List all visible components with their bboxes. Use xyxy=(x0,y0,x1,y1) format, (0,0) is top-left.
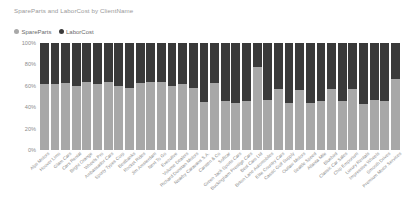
bar-segment-laborcost[interactable] xyxy=(253,43,262,67)
bar-segment-spareparts[interactable] xyxy=(136,83,145,150)
bar-segment-spareparts[interactable] xyxy=(295,90,304,150)
bar-group[interactable] xyxy=(135,43,146,150)
bar-segment-spareparts[interactable] xyxy=(61,83,70,150)
bar-segment-laborcost[interactable] xyxy=(317,43,326,101)
bar-group[interactable] xyxy=(358,43,369,150)
bar-segment-spareparts[interactable] xyxy=(263,100,272,150)
bar-group[interactable] xyxy=(199,43,210,150)
bar-segment-laborcost[interactable] xyxy=(178,43,187,84)
bar-segment-laborcost[interactable] xyxy=(210,43,219,83)
bar-segment-spareparts[interactable] xyxy=(317,101,326,150)
bar-segment-laborcost[interactable] xyxy=(306,43,315,103)
bar-segment-spareparts[interactable] xyxy=(125,88,134,150)
bar-segment-spareparts[interactable] xyxy=(306,103,315,150)
bar-segment-laborcost[interactable] xyxy=(380,43,389,101)
bar-segment-laborcost[interactable] xyxy=(231,43,240,103)
bar-group[interactable] xyxy=(71,43,82,150)
bar-segment-laborcost[interactable] xyxy=(93,43,102,84)
bar-segment-laborcost[interactable] xyxy=(189,43,198,88)
bar-group[interactable] xyxy=(60,43,71,150)
bar-segment-laborcost[interactable] xyxy=(72,43,81,86)
bar-segment-laborcost[interactable] xyxy=(40,43,49,84)
bar-segment-spareparts[interactable] xyxy=(327,89,336,150)
bar-segment-spareparts[interactable] xyxy=(146,82,155,150)
bar-group[interactable] xyxy=(156,43,167,150)
bar-segment-spareparts[interactable] xyxy=(348,89,357,150)
bar-segment-laborcost[interactable] xyxy=(359,43,368,104)
bar-group[interactable] xyxy=(348,43,359,150)
bar-segment-laborcost[interactable] xyxy=(263,43,272,100)
bar-segment-laborcost[interactable] xyxy=(104,43,113,82)
bar-segment-laborcost[interactable] xyxy=(157,43,166,82)
bar-segment-spareparts[interactable] xyxy=(338,101,347,150)
bar-segment-laborcost[interactable] xyxy=(200,43,209,102)
bar-segment-spareparts[interactable] xyxy=(200,102,209,150)
bar-segment-laborcost[interactable] xyxy=(391,43,400,79)
bar-segment-laborcost[interactable] xyxy=(338,43,347,101)
bar-group[interactable] xyxy=(220,43,231,150)
bar-segment-spareparts[interactable] xyxy=(114,86,123,150)
bar-segment-spareparts[interactable] xyxy=(157,82,166,150)
bar-segment-spareparts[interactable] xyxy=(253,67,262,150)
bar-group[interactable] xyxy=(262,43,273,150)
bar-segment-spareparts[interactable] xyxy=(210,83,219,150)
bar-segment-spareparts[interactable] xyxy=(391,79,400,150)
bar-segment-laborcost[interactable] xyxy=(125,43,134,88)
bar-group[interactable] xyxy=(390,43,401,150)
bar-segment-spareparts[interactable] xyxy=(370,100,379,150)
bar-group[interactable] xyxy=(82,43,93,150)
bar-segment-spareparts[interactable] xyxy=(51,84,60,150)
bar-segment-laborcost[interactable] xyxy=(146,43,155,82)
bar-segment-spareparts[interactable] xyxy=(274,89,283,150)
bar-group[interactable] xyxy=(167,43,178,150)
bar-segment-spareparts[interactable] xyxy=(285,103,294,150)
bar-group[interactable] xyxy=(92,43,103,150)
bar-segment-spareparts[interactable] xyxy=(231,103,240,150)
bar-group[interactable] xyxy=(113,43,124,150)
bar-segment-laborcost[interactable] xyxy=(168,43,177,86)
bar-group[interactable] xyxy=(252,43,263,150)
bar-group[interactable] xyxy=(369,43,380,150)
bar-group[interactable] xyxy=(380,43,391,150)
bar-segment-spareparts[interactable] xyxy=(189,88,198,150)
bar-segment-spareparts[interactable] xyxy=(40,84,49,150)
bar-segment-laborcost[interactable] xyxy=(114,43,123,86)
bar-segment-laborcost[interactable] xyxy=(295,43,304,90)
bar-group[interactable] xyxy=(231,43,242,150)
bar-group[interactable] xyxy=(50,43,61,150)
bar-group[interactable] xyxy=(39,43,50,150)
bar-segment-spareparts[interactable] xyxy=(168,86,177,150)
bar-segment-spareparts[interactable] xyxy=(221,101,230,150)
bar-segment-spareparts[interactable] xyxy=(359,104,368,150)
bar-segment-spareparts[interactable] xyxy=(93,84,102,150)
bar-segment-spareparts[interactable] xyxy=(380,101,389,150)
bar-segment-laborcost[interactable] xyxy=(221,43,230,101)
bar-segment-spareparts[interactable] xyxy=(178,84,187,150)
bar-segment-laborcost[interactable] xyxy=(327,43,336,89)
bar-segment-spareparts[interactable] xyxy=(104,82,113,150)
bar-segment-spareparts[interactable] xyxy=(82,82,91,150)
bar-segment-laborcost[interactable] xyxy=(242,43,251,101)
bar-group[interactable] xyxy=(284,43,295,150)
bar-segment-laborcost[interactable] xyxy=(348,43,357,89)
bar-group[interactable] xyxy=(337,43,348,150)
bar-group[interactable] xyxy=(294,43,305,150)
bar-group[interactable] xyxy=(326,43,337,150)
bar-group[interactable] xyxy=(273,43,284,150)
bar-segment-spareparts[interactable] xyxy=(242,101,251,150)
bar-group[interactable] xyxy=(188,43,199,150)
bar-segment-laborcost[interactable] xyxy=(274,43,283,89)
bar-group[interactable] xyxy=(209,43,220,150)
bar-group[interactable] xyxy=(145,43,156,150)
bar-group[interactable] xyxy=(305,43,316,150)
bar-group[interactable] xyxy=(103,43,114,150)
bar-group[interactable] xyxy=(316,43,327,150)
bar-segment-laborcost[interactable] xyxy=(82,43,91,82)
bar-group[interactable] xyxy=(124,43,135,150)
bar-segment-spareparts[interactable] xyxy=(72,86,81,150)
bar-segment-laborcost[interactable] xyxy=(136,43,145,83)
bar-group[interactable] xyxy=(177,43,188,150)
bar-segment-laborcost[interactable] xyxy=(285,43,294,103)
bar-group[interactable] xyxy=(241,43,252,150)
bar-segment-laborcost[interactable] xyxy=(370,43,379,100)
